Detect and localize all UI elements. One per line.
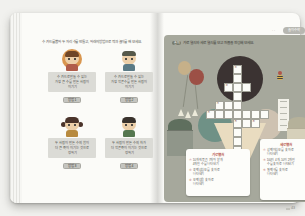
character-eye <box>125 124 127 126</box>
method-label: 방법 2 <box>120 97 138 103</box>
page-number: 43 <box>291 206 295 210</box>
clue-item-number: ① <box>263 148 266 156</box>
across-clues-bubble: 가로 열쇠 ② 10개씩 묶음 7개와 낱개4개인 수를 나타내기④ 육백삼십오… <box>186 149 250 196</box>
clue-number: ① <box>235 66 238 69</box>
clue-item: ① 삼백이십오를 숫자로나타내기 <box>263 148 305 156</box>
method-label: 방법 1 <box>63 97 81 103</box>
open-workbook: 수 카드를 뽑아 두 자리 수를 만들고, 아래의 방법으로 짝과 놀이를 해 … <box>10 13 300 203</box>
character-illustration <box>104 49 154 72</box>
crossword-cell: ⑤ <box>233 119 242 128</box>
across-clues-title: 가로 열쇠 <box>189 152 247 157</box>
clue-item: ③ 100이 4개, 10이 2개인수를 숫자로 나타내기 <box>263 158 305 166</box>
clue-item-number: ② <box>189 158 192 166</box>
method-card: 수 카드로 만들 수 있는가장 큰 수를 만든 사람이이기기 방법 1 <box>47 49 97 72</box>
crossword-cell <box>242 110 251 119</box>
balloon-string <box>183 75 188 107</box>
right-instruction-text: 가로 열쇠와 세로 열쇠를 보고 퍼즐을 완성해 보세요. <box>183 41 254 45</box>
method-label: 방법 3 <box>63 163 81 169</box>
crossword-cell: ④ <box>206 110 215 119</box>
crossword-cell <box>233 83 242 92</box>
crossword-cell <box>224 101 233 110</box>
crossword-cell <box>233 128 242 137</box>
method-text: 수 카드로 만들 수 있는가장 작은 수를 만든 사람이이기기 <box>105 72 153 92</box>
crossword-cell <box>233 92 242 101</box>
clue-item-number: ③ <box>263 158 266 166</box>
crossword-cell <box>242 83 251 92</box>
clue-item: ⑥ 오백십을 숫자로나타내기 <box>189 178 247 186</box>
character-eye <box>131 124 133 126</box>
clue-number: ② <box>226 84 229 87</box>
character-eye <box>68 124 70 126</box>
method-text: 두 사람이 만든 수의 차가더 작은 쪽이 이기는 것으로정하기 <box>105 138 153 158</box>
across-clues-list: ② 10개씩 묶음 7개와 낱개4개인 수를 나타내기④ 육백삼십오를 숫자로나… <box>189 158 247 186</box>
character-hair <box>65 51 79 57</box>
tab-dots: · · <box>272 29 275 33</box>
clue-number: ④ <box>208 111 211 114</box>
character-illustration <box>47 115 97 138</box>
character-body <box>123 130 135 137</box>
character-eye <box>74 124 76 126</box>
chapter-tab: 놀이 수학 <box>283 27 305 34</box>
character-eye <box>74 58 76 60</box>
crossword-cell <box>242 119 251 128</box>
crossword-cell: ② <box>224 83 233 92</box>
crossword-cell <box>233 101 242 110</box>
character-body <box>66 130 78 137</box>
tulip-flower <box>178 109 184 116</box>
character-eye <box>131 58 133 60</box>
clue-item-text: 100이 4개, 10이 2개인수를 숫자로 나타내기 <box>267 158 295 166</box>
clue-item-text: 칠백구를 숫자로나타내기 <box>267 168 288 176</box>
character-body <box>123 64 135 71</box>
left-instruction-text: 수 카드를 뽑아 두 자리 수를 만들고, 아래의 방법으로 짝과 놀이를 해 … <box>42 40 156 45</box>
right-instruction: 놀이가로 열쇠와 세로 열쇠를 보고 퍼즐을 완성해 보세요. <box>172 40 304 45</box>
character-eye <box>68 58 70 60</box>
method-card: 수 카드로 만들 수 있는가장 작은 수를 만든 사람이이기기 방법 2 <box>104 49 154 72</box>
crossword-cell <box>233 74 242 83</box>
crossword-cell: ⑥ <box>251 119 260 128</box>
character-eye <box>125 58 127 60</box>
clue-item-text: 육백삼십오를 숫자로나타내기 <box>193 168 220 176</box>
character-hair <box>65 117 79 123</box>
clue-item-text: 오백십을 숫자로나타내기 <box>193 178 214 186</box>
crossword-cell <box>251 110 260 119</box>
balloon-red <box>189 69 204 85</box>
tulip-flower <box>192 109 198 116</box>
crossword-cell: ① <box>233 65 242 74</box>
page-number-tick <box>286 208 290 210</box>
page-stack-edge <box>10 13 22 203</box>
crossword-cell: ③ <box>215 101 224 110</box>
character-illustration <box>104 115 154 138</box>
clue-item-number: ⑤ <box>263 168 266 176</box>
crossword-cell <box>215 110 224 119</box>
clue-item-number: ④ <box>189 168 192 176</box>
clue-item: ② 10개씩 묶음 7개와 낱개4개인 수를 나타내기 <box>189 158 247 166</box>
clue-number: ③ <box>217 102 220 105</box>
character-hair <box>122 117 136 123</box>
method-label: 방법 4 <box>120 163 138 169</box>
clue-number: ⑤ <box>235 120 238 123</box>
crossword-cell <box>260 110 269 119</box>
balloon-string <box>195 85 198 109</box>
crossword-cell <box>233 137 242 146</box>
clue-item: ⑤ 칠백구를 숫자로나타내기 <box>263 168 305 176</box>
puzzle-panel: 놀이가로 열쇠와 세로 열쇠를 보고 퍼즐을 완성해 보세요. <box>164 35 305 202</box>
method-card: 두 사람이 만든 수의 차가더 작은 쪽이 이기는 것으로정하기 방법 4 <box>104 115 154 138</box>
character-illustration <box>47 49 97 72</box>
clue-item: ④ 육백삼십오를 숫자로나타내기 <box>189 168 247 176</box>
clue-item-text: 10개씩 묶음 7개와 낱개4개인 수를 나타내기 <box>193 158 223 166</box>
crossword-cell <box>233 110 242 119</box>
character-hair <box>122 51 136 56</box>
down-clues-title: 세로 열쇠 <box>263 142 305 147</box>
clue-item-number: ⑥ <box>189 178 192 186</box>
method-card: 두 사람이 만든 수의 합이더 큰 쪽이 이기는 것으로정하기 방법 3 <box>47 115 97 138</box>
method-text: 수 카드로 만들 수 있는가장 큰 수를 만든 사람이이기기 <box>48 72 96 92</box>
crossword-cell <box>224 110 233 119</box>
clue-item-text: 삼백이십오를 숫자로나타내기 <box>267 148 294 156</box>
down-clues-bubble: 세로 열쇠 ① 삼백이십오를 숫자로나타내기③ 100이 4개, 10이 2개인… <box>260 139 305 200</box>
bee-character <box>276 71 283 79</box>
clue-number: ⑥ <box>253 120 256 123</box>
bee-body <box>277 75 283 80</box>
instruction-badge: 놀이 <box>172 41 181 45</box>
down-clues-list: ① 삼백이십오를 숫자로나타내기③ 100이 4개, 10이 2개인수를 숫자로… <box>263 148 305 176</box>
method-text: 두 사람이 만든 수의 합이더 큰 쪽이 이기는 것으로정하기 <box>48 138 96 158</box>
